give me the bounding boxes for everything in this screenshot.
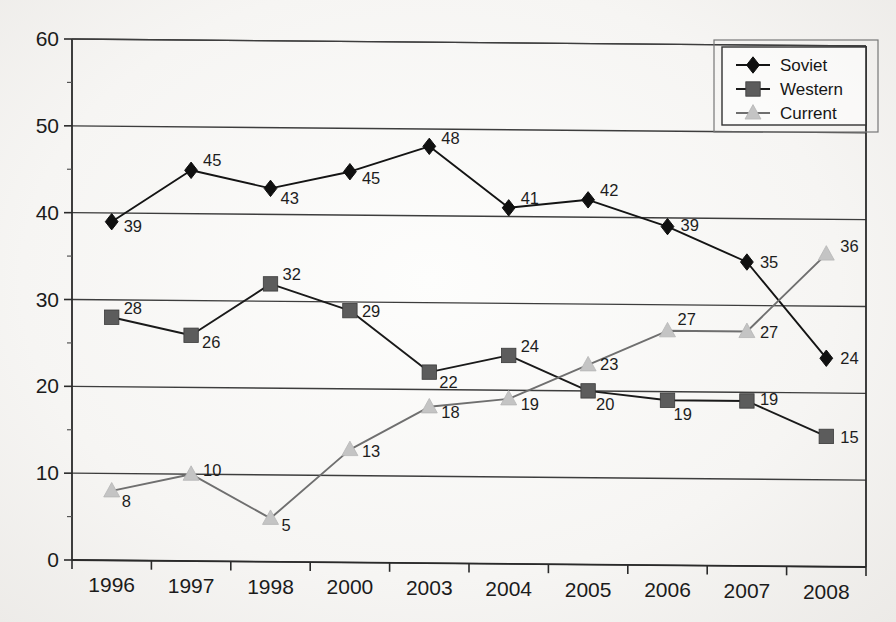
y-tick-label-60: 60 — [36, 27, 59, 50]
y-tick-label-20: 20 — [36, 374, 59, 397]
data-label-western-2003: 22 — [439, 373, 457, 391]
x-tick-label-2003: 2003 — [406, 576, 453, 599]
data-label-soviet-1996: 39 — [124, 217, 142, 235]
data-label-soviet-2004: 41 — [521, 189, 539, 207]
data-label-current-2004: 19 — [521, 395, 539, 413]
x-tick-label-2005: 2005 — [565, 578, 612, 601]
data-label-western-2006: 19 — [674, 405, 692, 423]
marker-diamond — [185, 162, 198, 178]
data-label-soviet-2008: 24 — [840, 349, 858, 367]
x-tick-label-1996: 1996 — [88, 573, 135, 596]
legend-item-western[interactable]: Western — [736, 80, 843, 99]
data-label-current-2000: 13 — [362, 442, 380, 460]
gridline-y-30 — [72, 300, 866, 307]
x-tick-label-1997: 1997 — [168, 574, 215, 597]
marker-square — [502, 348, 516, 362]
data-label-soviet-2003: 48 — [441, 129, 459, 147]
x-tick-label-2004: 2004 — [485, 577, 532, 600]
marker-diamond — [661, 218, 674, 234]
series-line-western — [112, 284, 827, 437]
marker-square — [105, 310, 119, 324]
marker-diamond — [344, 164, 357, 180]
data-label-soviet-1997: 45 — [203, 151, 221, 169]
marker-square — [343, 303, 357, 317]
marker-square — [263, 277, 277, 291]
data-label-western-2007: 19 — [760, 390, 778, 408]
marker-triangle — [660, 322, 676, 336]
data-label-current-2008: 36 — [840, 237, 858, 255]
marker-square — [184, 328, 198, 342]
x-tick-label-2007: 2007 — [724, 579, 771, 602]
data-label-western-1997: 26 — [202, 333, 220, 351]
data-label-western-1996: 28 — [124, 299, 142, 317]
y-tick-label-0: 0 — [47, 548, 59, 571]
data-label-soviet-2006: 39 — [681, 216, 699, 234]
y-tick-label-10: 10 — [36, 461, 59, 484]
y-tick-label-30: 30 — [36, 288, 59, 311]
marker-diamond — [502, 200, 515, 216]
data-label-western-2008: 15 — [840, 428, 858, 446]
legend-label-current: Current — [780, 104, 837, 123]
marker-triangle — [501, 390, 517, 404]
data-label-soviet-2005: 42 — [600, 181, 618, 199]
data-label-current-1997: 10 — [203, 461, 221, 479]
data-label-current-2006: 27 — [678, 310, 696, 328]
chart-canvas: 3945434548414239352428263229222420191915… — [0, 0, 896, 622]
marker-diamond — [105, 214, 118, 230]
data-label-soviet-1998: 43 — [281, 189, 299, 207]
series-line-soviet — [112, 146, 827, 358]
data-label-western-2004: 24 — [521, 337, 539, 355]
data-label-current-1996: 8 — [122, 492, 131, 510]
x-tick-label-2008: 2008 — [803, 580, 850, 603]
data-label-current-2007: 27 — [760, 323, 778, 341]
y-tick-label-40: 40 — [36, 201, 59, 224]
marker-square — [581, 384, 595, 398]
marker-triangle — [580, 356, 596, 370]
gridline-y-40 — [72, 213, 866, 220]
series-western — [105, 277, 834, 444]
marker-triangle — [263, 510, 279, 524]
data-label-current-1998: 5 — [282, 516, 291, 534]
marker-square — [422, 365, 436, 379]
marker-diamond — [423, 138, 436, 154]
marker-diamond — [582, 192, 595, 208]
marker-square — [746, 82, 760, 96]
marker-diamond — [264, 180, 277, 196]
marker-triangle — [818, 246, 834, 260]
line-chart: 3945434548414239352428263229222420191915… — [0, 0, 896, 622]
data-label-soviet-2007: 35 — [760, 253, 778, 271]
data-label-western-2005: 20 — [596, 395, 614, 413]
legend: SovietWesternCurrent — [714, 40, 878, 132]
gridline-y-20 — [72, 386, 866, 393]
data-label-soviet-2000: 45 — [362, 169, 380, 187]
x-tick-label-2000: 2000 — [327, 575, 374, 598]
marker-triangle — [183, 466, 199, 480]
marker-square — [740, 394, 754, 408]
data-label-western-1998: 32 — [283, 265, 301, 283]
y-tick-label-50: 50 — [36, 114, 59, 137]
legend-label-western: Western — [780, 80, 843, 99]
data-label-current-2003: 18 — [441, 403, 459, 421]
marker-square — [819, 429, 833, 443]
x-tick-label-2006: 2006 — [644, 578, 691, 601]
data-label-western-2000: 29 — [362, 302, 380, 320]
marker-triangle — [342, 441, 358, 455]
x-tick-label-1998: 1998 — [247, 575, 294, 598]
data-label-current-2005: 23 — [600, 355, 618, 373]
series-current — [104, 246, 835, 525]
legend-label-soviet: Soviet — [780, 56, 828, 75]
